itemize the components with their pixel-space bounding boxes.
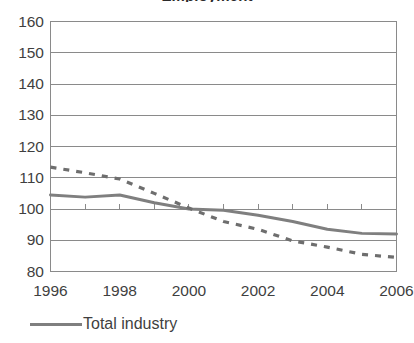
y-tick-label: 130 xyxy=(4,107,44,123)
y-tick-label: 90 xyxy=(4,232,44,248)
legend-line-swatch-total-industry xyxy=(30,323,82,326)
chart-legend: Total industry xyxy=(30,313,177,335)
gridlines xyxy=(51,53,397,241)
series-line-total-industry xyxy=(51,195,397,234)
x-tick-label: 1996 xyxy=(21,283,81,299)
y-tick-label: 110 xyxy=(4,170,44,186)
y-tick-label: 160 xyxy=(4,14,44,30)
employment-line-chart: Employment 1601501401301201101009080 199… xyxy=(0,0,414,343)
y-tick-label: 140 xyxy=(4,76,44,92)
x-tick-label: 2002 xyxy=(228,283,288,299)
y-tick-label: 150 xyxy=(4,45,44,61)
y-tick-label: 120 xyxy=(4,139,44,155)
x-tick-label: 2004 xyxy=(297,283,357,299)
series-layer xyxy=(51,167,397,257)
x-tick-label: 1998 xyxy=(90,283,150,299)
y-tick-label: 80 xyxy=(4,264,44,280)
x-tick-marks xyxy=(51,204,397,209)
legend-label-total-industry: Total industry xyxy=(83,316,177,332)
x-tick-label: 2006 xyxy=(367,283,414,299)
series-line-series-2 xyxy=(51,167,397,257)
x-tick-label: 2000 xyxy=(159,283,219,299)
y-tick-label: 100 xyxy=(4,201,44,217)
